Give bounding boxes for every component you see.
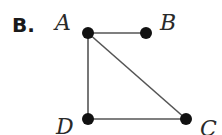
vertex-d <box>82 113 94 125</box>
vertex-label-b: B <box>159 10 176 35</box>
vertex-labels: A B C D <box>53 10 217 135</box>
vertex-label-c: C <box>200 116 217 135</box>
option-label: B. <box>12 13 35 37</box>
vertex-label-a: A <box>53 10 71 35</box>
vertex-label-d: D <box>55 114 74 135</box>
graph-diagram-option-b: B. A B C D <box>0 0 222 135</box>
edges <box>88 33 186 119</box>
graph-svg: B. A B C D <box>0 0 222 135</box>
vertex-b <box>140 27 152 39</box>
vertex-c <box>180 113 192 125</box>
vertex-a <box>82 27 94 39</box>
edge-a-c <box>88 33 186 119</box>
